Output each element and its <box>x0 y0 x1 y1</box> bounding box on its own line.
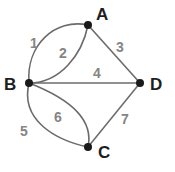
graph-diagram: A B C D 1 2 3 4 5 6 7 <box>0 0 175 172</box>
node-d <box>136 79 144 87</box>
node-b <box>25 79 33 87</box>
node-label-b: B <box>4 75 16 94</box>
node-c <box>84 143 92 151</box>
edge-label-4: 4 <box>93 65 101 81</box>
edge-label-6: 6 <box>54 109 62 125</box>
node-a <box>84 21 92 29</box>
edge-label-5: 5 <box>20 123 28 139</box>
edge-label-2: 2 <box>59 45 67 61</box>
edge-label-7: 7 <box>121 111 129 127</box>
node-label-a: A <box>96 5 108 24</box>
edge-7 <box>88 83 140 147</box>
edge-label-1: 1 <box>30 35 38 51</box>
node-label-c: C <box>98 143 110 162</box>
edge-label-3: 3 <box>116 39 124 55</box>
node-label-d: D <box>150 75 162 94</box>
